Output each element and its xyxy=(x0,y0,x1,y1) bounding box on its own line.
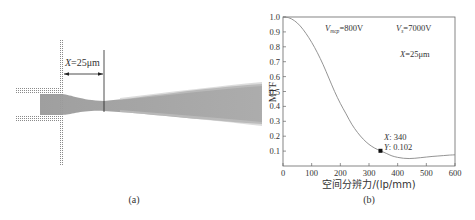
y-tick-label: 0.1 xyxy=(269,146,280,156)
plot-frame xyxy=(283,17,455,166)
svg-text:X: 340: X: 340 xyxy=(383,132,406,142)
y-tick-label: 0.3 xyxy=(269,116,280,126)
annotation-vs: Vs=7000V xyxy=(396,23,432,34)
x-axis-label: 空间分辨力/(lp/mm) xyxy=(322,178,415,190)
datatip-marker[interactable] xyxy=(378,149,382,153)
x-tick-label: 300 xyxy=(363,168,376,178)
svg-text:Y: 0.102: Y: 0.102 xyxy=(384,142,412,152)
x-tick-label: 200 xyxy=(334,168,347,178)
y-tick-label: 0.7 xyxy=(269,57,280,67)
x-tick-label: 600 xyxy=(449,168,462,178)
x-tick-label: 0 xyxy=(281,168,285,178)
x-axis-ticks: 0100200300400500600 xyxy=(281,163,462,178)
annotation-vmcp: Vmcp=800V xyxy=(325,23,364,34)
x-tick-label: 100 xyxy=(305,168,318,178)
x-tick-label: 500 xyxy=(420,168,433,178)
y-tick-label: 0.9 xyxy=(269,27,280,37)
x-tick-label: 400 xyxy=(391,168,404,178)
datatip: X: 340 Y: 0.102 xyxy=(383,132,412,152)
y-tick-label: 0.2 xyxy=(269,131,280,141)
panel-b-mtf-chart: 0.10.20.30.40.50.60.70.80.91.0 010020030… xyxy=(0,0,475,220)
caption-b: (b) xyxy=(363,194,375,206)
y-tick-label: 1.0 xyxy=(269,12,280,22)
y-axis-label: MTF xyxy=(267,81,278,102)
annotation-x-distance: X=25μm xyxy=(399,49,430,59)
mtf-curve xyxy=(283,17,455,159)
y-tick-label: 0.8 xyxy=(269,42,280,52)
y-tick-label: 0.6 xyxy=(269,72,280,82)
